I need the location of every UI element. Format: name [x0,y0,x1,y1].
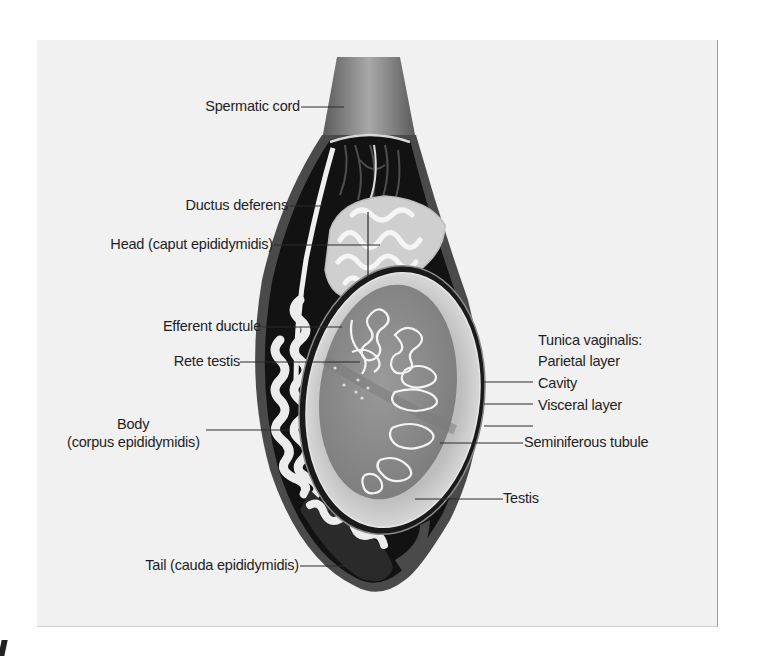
label-head-epididymis: Head (caput epididymidis) [66,236,273,253]
label-parietal-layer: Parietal layer [538,353,620,370]
label-seminiferous-tubule: Seminiferous tubule [524,434,648,451]
label-tunica-vaginalis: Tunica vaginalis: [538,332,642,349]
label-spermatic-cord: Spermatic cord [153,98,300,115]
label-body-epididymis: Body [117,416,149,433]
label-testis: Testis [503,490,539,507]
label-cavity: Cavity [538,375,577,392]
spermatic-cord-shape [322,57,416,140]
label-efferent-ductule: Efferent ductule [100,318,261,335]
label-ductus-deferens: Ductus deferens [140,197,288,214]
label-rete-testis: Rete testis [140,353,240,370]
label-body-epididymis-sub: (corpus epididymidis) [67,434,200,451]
label-tail-epididymis: Tail (cauda epididymidis) [100,557,299,574]
label-visceral-layer: Visceral layer [538,397,622,414]
